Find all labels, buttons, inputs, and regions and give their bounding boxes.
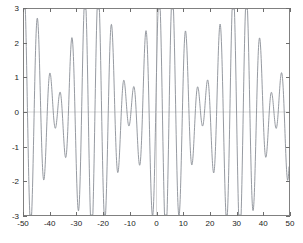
- y-tick-label-1: 1: [0, 73, 19, 82]
- y-tick--3: [23, 216, 27, 217]
- x-tick-30: [237, 212, 238, 216]
- y-tick-right--1: [286, 147, 290, 148]
- y-tick-0: [23, 112, 27, 113]
- x-tick-top-50: [290, 8, 291, 12]
- x-tick-top-10: [183, 8, 184, 12]
- x-tick-label-40: 40: [259, 219, 268, 228]
- y-tick-3: [23, 8, 27, 9]
- series-canvas: [24, 9, 289, 215]
- x-tick-top-0: [157, 8, 158, 12]
- y-tick-right-1: [286, 77, 290, 78]
- x-tick-label-30: 30: [232, 219, 241, 228]
- x-tick-label--10: -10: [124, 219, 136, 228]
- y-tick-label--1: -1: [0, 142, 19, 151]
- y-tick--2: [23, 181, 27, 182]
- x-tick-label-50: 50: [286, 219, 295, 228]
- x-tick-label-0: 0: [154, 219, 158, 228]
- y-tick-label-2: 2: [0, 38, 19, 47]
- y-tick--1: [23, 147, 27, 148]
- x-tick-label--30: -30: [71, 219, 83, 228]
- y-tick-label--2: -2: [0, 177, 19, 186]
- y-tick-right-0: [286, 112, 290, 113]
- x-tick-top-40: [263, 8, 264, 12]
- grid-layer: [24, 9, 289, 215]
- y-tick-label--3: -3: [0, 212, 19, 221]
- x-tick--10: [130, 212, 131, 216]
- x-tick-0: [157, 212, 158, 216]
- plot-area: [23, 8, 290, 216]
- x-tick-top--40: [50, 8, 51, 12]
- x-tick--20: [103, 212, 104, 216]
- y-tick-right--3: [286, 216, 290, 217]
- x-tick-20: [210, 212, 211, 216]
- y-tick-2: [23, 43, 27, 44]
- x-tick-10: [183, 212, 184, 216]
- x-tick-top-30: [237, 8, 238, 12]
- x-tick-label-20: 20: [205, 219, 214, 228]
- y-tick-label-0: 0: [0, 108, 19, 117]
- y-tick-label-3: 3: [0, 4, 19, 13]
- x-tick-40: [263, 212, 264, 216]
- x-tick--40: [50, 212, 51, 216]
- x-tick-label--40: -40: [44, 219, 56, 228]
- x-tick-top--10: [130, 8, 131, 12]
- y-tick-right-3: [286, 8, 290, 9]
- y-tick-right--2: [286, 181, 290, 182]
- x-tick-label-10: 10: [179, 219, 188, 228]
- x-tick-top--30: [76, 8, 77, 12]
- y-tick-1: [23, 77, 27, 78]
- x-tick-top--20: [103, 8, 104, 12]
- x-tick--30: [76, 212, 77, 216]
- x-tick-50: [290, 212, 291, 216]
- y-tick-right-2: [286, 43, 290, 44]
- chart-figure: -50-40-30-20-1001020304050 -3-2-10123: [0, 0, 303, 243]
- x-tick-top-20: [210, 8, 211, 12]
- x-tick-label--20: -20: [97, 219, 109, 228]
